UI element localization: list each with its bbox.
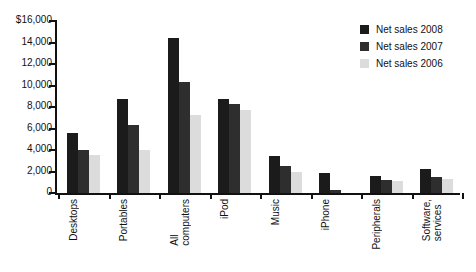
x-axis-label: Music [270,199,281,225]
legend-item[interactable]: Net sales 2008 [360,22,443,37]
y-axis-tick-label: 8,000 [0,101,52,111]
x-axis-label: Software,services [421,199,443,241]
bar [240,110,251,193]
legend-label: Net sales 2006 [376,59,443,69]
legend-label: Net sales 2008 [376,25,443,35]
y-axis-tick [49,171,56,173]
bar [89,155,100,193]
x-axis-label: Allcomputers [169,199,191,246]
x-axis-label-line: computers [180,199,191,246]
bar-group [168,21,201,193]
bar-group [67,21,100,193]
bar [442,179,453,193]
x-axis-tick [361,193,363,199]
legend-swatch-icon [360,25,369,34]
legend-label: Net sales 2007 [376,42,443,52]
bar-group [218,21,251,193]
bar-chart: $16,00014,00012,00010,0008,0006,0004,000… [0,0,476,272]
bar [67,133,78,193]
bar [330,190,341,193]
x-axis-label-line: iPhone [320,199,331,230]
x-axis-label-line: services [432,199,443,241]
x-axis-label-line: Desktops [68,199,79,241]
bar [319,173,330,193]
bar [392,181,403,193]
x-axis-tick [159,193,161,199]
x-axis-tick [412,193,414,199]
bar [78,150,89,193]
bar [269,156,280,193]
y-axis-tick-label: 14,000 [0,37,52,47]
y-axis-tick-label: 0 [0,187,52,197]
legend: Net sales 2008Net sales 2007Net sales 20… [360,22,443,73]
x-axis-line [55,193,460,195]
bar [370,176,381,193]
bar-group [319,21,352,193]
y-axis-tick [49,128,56,130]
x-axis-label: Portables [118,199,129,241]
bar [117,99,128,193]
bar-group [117,21,150,193]
y-axis-tick-label: 12,000 [0,58,52,68]
bar [420,169,431,193]
bar [431,177,442,193]
bar [280,166,291,193]
x-axis-label: Desktops [68,199,79,241]
bar [381,180,392,193]
y-axis-tick-label: $16,000 [0,15,52,25]
legend-item[interactable]: Net sales 2007 [360,39,443,54]
x-axis-tick [210,193,212,199]
bar-group [269,21,302,193]
bar [291,172,302,194]
y-axis-tick-label: 10,000 [0,80,52,90]
x-axis-label: iPod [219,199,230,219]
bar [128,125,139,193]
x-axis-label-line: Peripherals [371,199,382,250]
x-axis-label-line: All [169,199,180,246]
bar [229,104,240,193]
x-axis-label-line: iPod [219,199,230,219]
bar [179,82,190,193]
y-axis-tick [49,85,56,87]
legend-swatch-icon [360,42,369,51]
y-axis-tick-label: 4,000 [0,144,52,154]
x-axis-tick [58,193,60,199]
y-axis-tick-label: 6,000 [0,123,52,133]
y-axis-tick [49,63,56,65]
bar [218,99,229,193]
x-axis-tick [311,193,313,199]
y-axis-tick [49,20,56,22]
y-axis-tick-label: 2,000 [0,166,52,176]
legend-item[interactable]: Net sales 2006 [360,56,443,71]
x-axis-label-line: Music [270,199,281,225]
x-axis-label-line: Portables [118,199,129,241]
x-axis-label: iPhone [320,199,331,230]
y-axis-tick [49,192,56,194]
bar [190,115,201,193]
x-axis-label-line: Software, [421,199,432,241]
x-axis-tick [462,193,464,199]
bar [168,38,179,193]
bar [139,150,150,193]
x-axis-tick [260,193,262,199]
y-axis-tick [49,106,56,108]
y-axis-labels: $16,00014,00012,00010,0008,0006,0004,000… [0,0,52,272]
y-axis-tick [49,42,56,44]
x-axis-label: Peripherals [371,199,382,250]
y-axis-tick [49,149,56,151]
x-axis-tick [109,193,111,199]
legend-swatch-icon [360,59,369,68]
